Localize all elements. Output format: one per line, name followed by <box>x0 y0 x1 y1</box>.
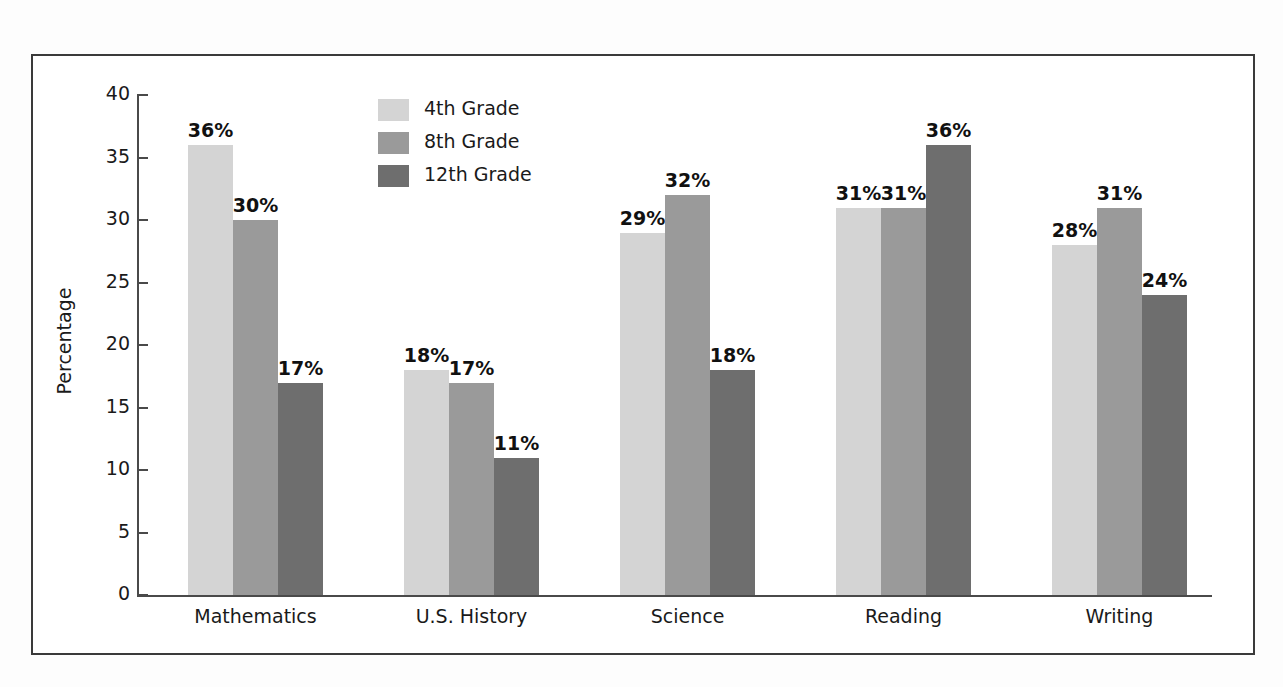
legend-label: 8th Grade <box>424 130 520 152</box>
chart-frame-border <box>31 54 1255 655</box>
legend-label: 12th Grade <box>424 163 532 185</box>
legend-label: 4th Grade <box>424 97 520 119</box>
legend-item: 12th Grade <box>378 163 588 196</box>
legend-color-swatch <box>378 99 409 121</box>
legend-item: 8th Grade <box>378 130 588 163</box>
chart-legend: 4th Grade8th Grade12th Grade <box>378 97 588 196</box>
legend-item: 4th Grade <box>378 97 588 130</box>
legend-color-swatch <box>378 132 409 154</box>
legend-color-swatch <box>378 165 409 187</box>
figure-canvas: 0510152025303540 Percentage 36%30%17%18%… <box>0 0 1283 687</box>
